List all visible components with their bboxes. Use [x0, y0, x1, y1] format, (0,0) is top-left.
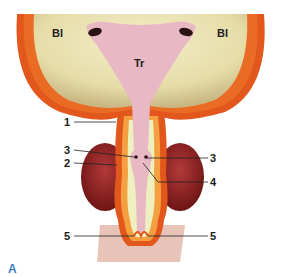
panel-label: A [8, 262, 17, 276]
duct-opening-left [134, 155, 138, 159]
callout-4: 4 [210, 177, 216, 188]
callout-3-right: 3 [210, 153, 216, 164]
region-label-bladder-right: Bl [217, 27, 228, 39]
callout-1: 1 [64, 117, 70, 128]
region-label-trigone: Tr [134, 57, 144, 69]
callout-3-left: 3 [64, 145, 70, 156]
callout-5-left: 5 [64, 231, 70, 242]
callout-5-right: 5 [210, 231, 216, 242]
callout-2: 2 [64, 158, 70, 169]
region-label-bladder-left: Bl [52, 27, 63, 39]
anatomy-illustration [0, 0, 281, 277]
